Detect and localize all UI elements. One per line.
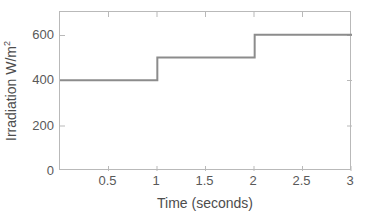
figure-canvas: Irradiation W/m2 600 400 200 0 [0,0,369,223]
y-axis-title-superscript: 2 [2,41,12,46]
x-tick-label-1_5: 1.5 [195,174,213,187]
y-tick-label-200: 200 [32,119,54,132]
plot-svg [60,12,352,171]
x-tick-label-3: 3 [346,174,353,187]
y-tick-label-400: 400 [32,73,54,86]
y-tick-label-600: 600 [32,28,54,41]
x-axis-title: Time (seconds) [59,196,351,210]
x-tick-label-2: 2 [249,174,256,187]
x-tick-label-0_5: 0.5 [98,174,116,187]
y-axis-title-text: Irradiation W/m [3,46,19,141]
y-axis-title-container: Irradiation W/m2 [0,11,22,170]
plot-area [59,11,351,170]
y-tick-label-0: 0 [47,164,54,177]
x-tick-marks [109,12,352,171]
x-tick-label-1: 1 [152,174,159,187]
series-irradiation-line [60,35,352,80]
y-axis-title: Irradiation W/m2 [4,41,18,141]
x-tick-label-2_5: 2.5 [292,174,310,187]
